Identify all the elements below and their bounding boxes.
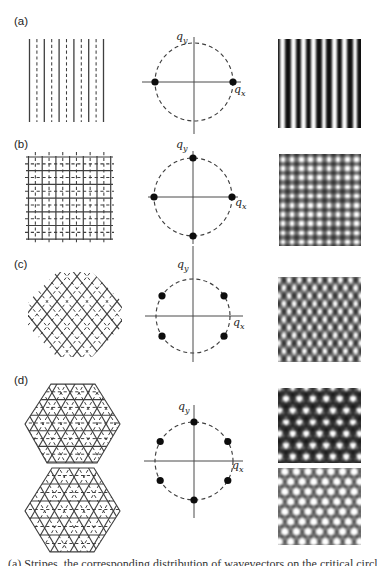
- q-symbol: q: [176, 138, 183, 151]
- y-subscript: y: [183, 144, 188, 153]
- qspace-plot-a: [138, 32, 249, 139]
- x-subscript: x: [239, 465, 244, 474]
- square-lattice-fill: [279, 154, 361, 246]
- lattice-drawing-rhombic: [24, 270, 125, 359]
- q-symbol: q: [176, 30, 183, 43]
- figure-canvas: (a) qy qx (b) qy qx (c) qy qx (d) qy qx …: [0, 0, 377, 566]
- intensity-pattern-rhombic: [278, 277, 361, 362]
- lattice-drawing-triangular-upper: [23, 383, 123, 464]
- qspace-plot-c: [141, 241, 251, 367]
- lattice-drawing-square-grid: [25, 151, 114, 245]
- intensity-pattern-hexagonal-dark: [278, 388, 361, 463]
- q-symbol: q: [234, 83, 241, 96]
- y-subscript: y: [184, 264, 189, 273]
- figure-caption-fragment: (a) Stripes, the corresponding distribut…: [8, 557, 377, 566]
- intensity-pattern-square-lattice: [279, 154, 361, 246]
- qspace-plot-b: [144, 146, 246, 249]
- x-subscript: x: [240, 322, 245, 331]
- q-symbol: q: [233, 316, 240, 329]
- intensity-pattern-hexagonal-light: [278, 468, 361, 545]
- q-symbol: q: [232, 459, 239, 472]
- stripe-pattern-fill: [278, 39, 361, 128]
- q-symbol: q: [178, 400, 185, 413]
- y-subscript: y: [185, 406, 190, 415]
- lattice-drawing-stripes: [27, 37, 106, 124]
- subfigure-label-a: (a): [14, 15, 28, 27]
- q-symbol: q: [235, 196, 242, 209]
- qy-axis-label: qy: [178, 401, 190, 417]
- qy-axis-label: qy: [176, 31, 188, 47]
- x-subscript: x: [241, 89, 246, 98]
- q-symbol: q: [177, 258, 184, 271]
- subfigure-label-b: (b): [14, 138, 28, 150]
- y-subscript: y: [183, 36, 188, 45]
- subfigure-label-c: (c): [14, 258, 27, 270]
- qx-axis-label: qx: [234, 84, 246, 100]
- hexagonal-light-fill: [278, 468, 361, 545]
- qy-axis-label: qy: [176, 139, 188, 155]
- intensity-pattern-stripes: [278, 39, 361, 128]
- hexagonal-dark-fill: [278, 388, 361, 463]
- lattice-drawing-triangular-lower: [23, 466, 123, 554]
- rhombic-pattern-fill: [278, 277, 361, 362]
- qy-axis-label: qy: [177, 259, 189, 275]
- qx-axis-label: qx: [233, 317, 245, 333]
- qx-axis-label: qx: [232, 460, 244, 476]
- qx-axis-label: qx: [235, 197, 247, 213]
- x-subscript: x: [242, 202, 247, 211]
